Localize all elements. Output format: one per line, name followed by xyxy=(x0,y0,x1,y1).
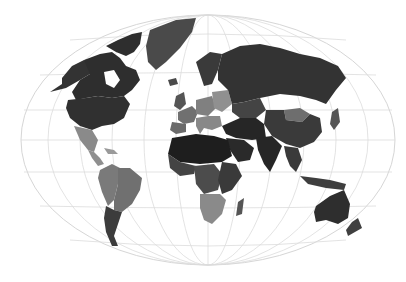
region-iceland xyxy=(168,78,178,86)
region-india xyxy=(256,136,282,172)
region-russia xyxy=(218,44,346,104)
region-central-africa xyxy=(194,164,222,194)
region-middle-east xyxy=(222,118,266,140)
region-mexico xyxy=(74,126,98,152)
land-regions xyxy=(50,18,362,246)
region-united-states xyxy=(66,96,130,130)
region-madagascar xyxy=(236,198,244,216)
region-new-zealand xyxy=(346,218,362,236)
region-uk-ireland xyxy=(174,92,186,110)
region-scandinavia xyxy=(196,52,222,86)
region-southern-africa xyxy=(200,194,226,224)
region-east-africa xyxy=(218,162,242,194)
region-japan xyxy=(330,108,340,130)
region-greenland xyxy=(146,18,196,70)
region-iberia xyxy=(170,122,186,134)
region-argentina-chile xyxy=(104,206,122,246)
world-choropleth-map xyxy=(0,0,406,282)
map-canvas xyxy=(0,0,406,282)
region-brazil xyxy=(114,168,142,212)
region-indonesia xyxy=(300,176,346,190)
region-north-africa xyxy=(168,134,232,164)
region-southeast-asia xyxy=(284,146,302,172)
region-italy-balkans xyxy=(196,116,222,134)
region-australia xyxy=(314,190,350,224)
region-caribbean xyxy=(104,148,118,154)
region-central-america xyxy=(88,150,104,166)
